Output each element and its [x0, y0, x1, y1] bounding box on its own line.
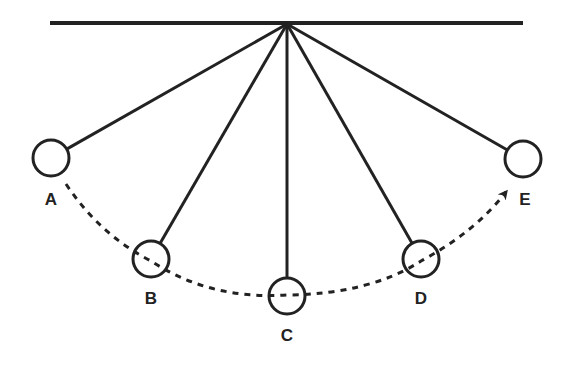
string-a: [67, 24, 287, 149]
string-d: [287, 24, 412, 243]
pendulum-diagram: ABCDE: [0, 0, 568, 365]
label-c: C: [281, 326, 293, 345]
bob-e: [505, 141, 541, 177]
label-e: E: [519, 190, 530, 209]
label-a: A: [45, 190, 57, 209]
label-d: D: [415, 289, 427, 308]
bob-c: [269, 278, 305, 314]
pendulum-strings: [67, 24, 508, 278]
bob-b: [133, 241, 169, 277]
label-b: B: [145, 289, 157, 308]
string-b: [160, 24, 287, 243]
bob-a: [33, 140, 69, 176]
string-e: [287, 24, 507, 150]
bob-d: [403, 241, 439, 277]
